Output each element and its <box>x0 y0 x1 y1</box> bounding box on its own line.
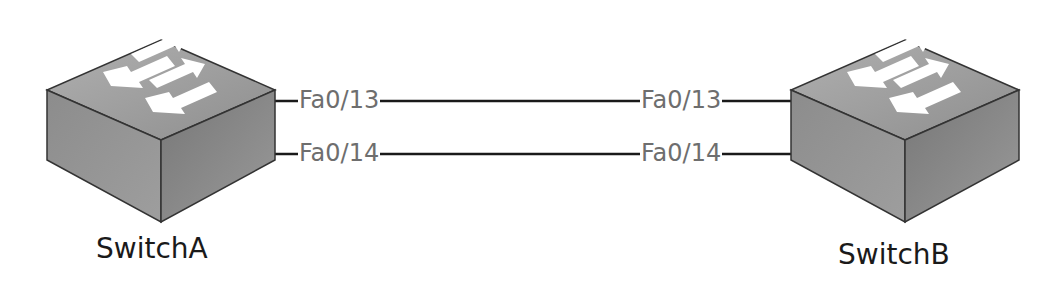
switch-b-label: SwitchB <box>838 241 950 269</box>
switch-a-port-fa0-14: Fa0/14 <box>298 141 380 165</box>
switch-b-port-fa0-13: Fa0/13 <box>640 88 722 112</box>
switch-a-port-fa0-13: Fa0/13 <box>298 88 380 112</box>
switch-a-label: SwitchA <box>96 235 208 263</box>
switch-b-port-fa0-14: Fa0/14 <box>640 141 722 165</box>
switch-b-icon[interactable] <box>791 32 1019 222</box>
switch-a-icon[interactable] <box>47 32 275 222</box>
